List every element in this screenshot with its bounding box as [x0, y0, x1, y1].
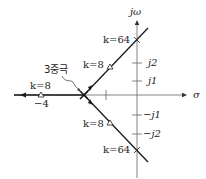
root-locus-diagram: jω σ j2 j1 −j1 −j2 −4 k=64 k=8 k=8 k=8 k…: [0, 0, 206, 179]
label-triple-pole: 3중극: [44, 64, 68, 75]
label-j1: j1: [146, 75, 157, 86]
label-neg-j2: −j2: [143, 128, 161, 139]
label-neg-j1: −j1: [143, 109, 161, 120]
real-axis-label: σ: [193, 89, 201, 100]
label-k8-upper: k=8: [83, 59, 104, 70]
arrow-real-icon: [20, 93, 26, 98]
label-j2: j2: [146, 57, 157, 68]
label-k8-lower: k=8: [83, 118, 104, 129]
label-neg-4: −4: [34, 98, 49, 109]
label-k64-lower: k=64: [103, 144, 130, 155]
imag-axis-label: jω: [128, 6, 141, 17]
label-k64-upper: k=64: [103, 34, 130, 45]
triple-pole-pointer: [62, 76, 80, 91]
label-k8-real: k=8: [30, 80, 51, 91]
